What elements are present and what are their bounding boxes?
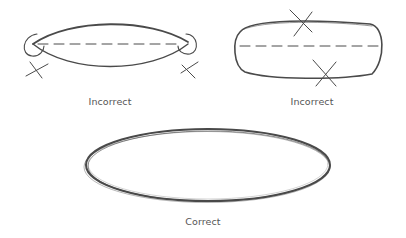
cross-mark-right bbox=[181, 62, 198, 78]
cross-mark-top bbox=[290, 10, 312, 36]
incorrect-flat-ellipse bbox=[235, 10, 384, 86]
correct-ellipse bbox=[84, 129, 330, 203]
cross-mark-left bbox=[26, 62, 48, 78]
ellipse-drawing-diagram bbox=[0, 0, 406, 238]
cross-mark-bottom bbox=[313, 60, 336, 86]
caption-incorrect-flat: Incorrect bbox=[262, 96, 362, 107]
incorrect-pointed-ellipse bbox=[24, 24, 198, 78]
caption-incorrect-pointed: Incorrect bbox=[60, 96, 160, 107]
caption-correct: Correct bbox=[153, 216, 253, 227]
